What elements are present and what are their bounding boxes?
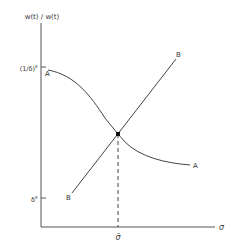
y-axis-label: w(t) / w(t) xyxy=(25,13,60,21)
curve-a-start-label: A xyxy=(45,70,50,78)
line-b-end-label: B xyxy=(176,51,181,59)
tick-lower-label: δε xyxy=(31,194,38,204)
curve-a xyxy=(48,70,190,165)
line-b xyxy=(72,59,176,193)
x-axis-label: σ xyxy=(219,223,225,232)
tick-upper-label: (1/δ)ε xyxy=(20,63,38,73)
intersection-point xyxy=(116,132,120,136)
curve-a-end-label: A xyxy=(193,162,198,170)
line-b-start-label: B xyxy=(66,194,71,202)
diagram-canvas: w(t) / w(t) (1/δ)ε δε A A B B σ σ̄ xyxy=(0,0,237,249)
sigma-bar-label: σ̄ xyxy=(115,233,121,242)
